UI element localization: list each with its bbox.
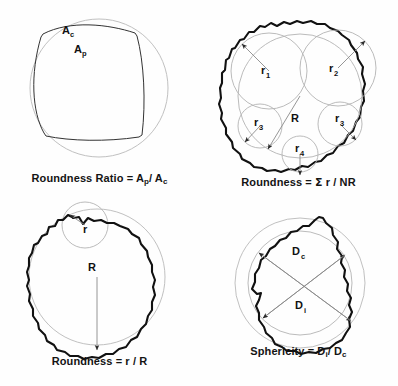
panel-sphericity: D c D i Sphericity = Di/ Dc	[199, 193, 398, 386]
label-area-particle-sub: p	[82, 49, 87, 58]
figure-roundness-sum: r 1 r 2 r 3 r 3 r 4 R	[199, 0, 398, 193]
label-r3-right-sub: 3	[340, 119, 344, 128]
label-Dc-sub: c	[301, 252, 305, 261]
caption-sphericity: Sphericity = Di/ Dc	[199, 345, 398, 359]
label-r1-sub: 1	[266, 71, 270, 80]
label-area-particle: A	[74, 43, 82, 55]
label-area-circumscribed-sub: c	[70, 30, 74, 39]
particle-outline-quadrilateral	[34, 25, 144, 140]
label-r: r	[83, 223, 88, 235]
panel-roundness-sum: r 1 r 2 r 3 r 3 r 4 R Roundness = Σ r / …	[199, 0, 398, 193]
particle-shape-diagram: A c A p Roundness Ratio = Ap/ Ac	[0, 0, 398, 386]
label-r3-left-sub: 3	[259, 123, 263, 132]
figure-roundness-ratio: A c A p	[0, 0, 199, 193]
label-R: R	[88, 261, 96, 273]
label-area-circumscribed: A	[62, 24, 70, 36]
panel-roundness-rr: r R Roundness = r / R	[0, 193, 199, 386]
caption-roundness-ratio: Roundness Ratio = Ap/ Ac	[0, 172, 199, 186]
caption-roundness-rr: Roundness = r / R	[0, 355, 199, 367]
particle-outline	[252, 217, 352, 354]
caption-roundness-sum: Roundness = Σ r / NR	[199, 176, 398, 189]
panel-roundness-ratio: A c A p Roundness Ratio = Ap/ Ac	[0, 0, 199, 193]
label-r2-sub: 2	[334, 69, 338, 78]
label-r4-sub: 4	[300, 149, 305, 158]
label-Di-sub: i	[304, 306, 306, 315]
label-R: R	[291, 112, 299, 124]
circumscribed-circle	[30, 19, 168, 157]
label-Dc: D	[292, 245, 300, 257]
particle-outline	[27, 215, 155, 359]
label-Di: D	[295, 299, 303, 311]
